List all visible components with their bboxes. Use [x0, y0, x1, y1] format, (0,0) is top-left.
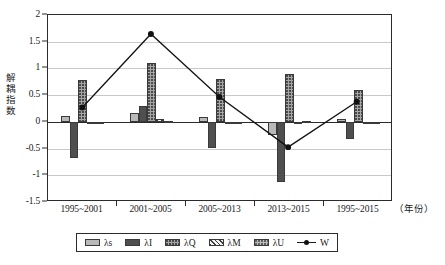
legend-item-λM[interactable]: λM	[209, 238, 241, 248]
x-tick-label-2: 2005~2013	[198, 202, 240, 216]
legend-label: λQ	[184, 238, 195, 248]
legend-label: λU	[273, 238, 284, 248]
bar-ls-1	[130, 113, 139, 122]
legend-label: λM	[228, 238, 241, 248]
bar-ls-2	[199, 117, 208, 122]
y-tick-label: 1.5	[29, 36, 40, 46]
legend-label: λs	[104, 238, 112, 248]
legend-item-λs[interactable]: λs	[85, 238, 112, 248]
w-data-point-1	[148, 31, 154, 37]
bar-lq-4	[354, 90, 363, 122]
legend-item-λI[interactable]: λI	[125, 238, 152, 248]
legend-label: λI	[144, 238, 152, 248]
x-axis-labels: 1995~20012001~20052005~20132013~20151995…	[47, 202, 392, 220]
y-axis-ticks: 21.510.50-0.5-1-1.5	[0, 0, 47, 201]
bar-lu-1	[164, 121, 173, 123]
bar-lm-4	[363, 122, 372, 124]
bar-lq-3	[285, 74, 294, 122]
y-tick-label: 1	[35, 62, 40, 72]
legend-swatch-lm	[209, 239, 224, 246]
bar-ls-3	[268, 122, 277, 135]
bar-li-3	[277, 122, 286, 182]
legend-line-marker-icon	[297, 239, 316, 247]
legend-swatch-lu	[254, 239, 269, 246]
plot-area	[47, 14, 392, 201]
bar-lm-2	[225, 122, 234, 124]
y-tick-label: 0	[35, 116, 40, 126]
y-tick-label: -1	[32, 169, 40, 179]
bar-lu-0	[95, 122, 104, 124]
legend-swatch-lq	[165, 239, 180, 246]
gridline	[48, 175, 391, 176]
legend-item-W[interactable]: W	[297, 238, 329, 248]
plot-inner	[48, 15, 391, 200]
legend-line-dot-icon	[304, 240, 309, 245]
gridline	[48, 42, 391, 43]
bar-li-0	[70, 122, 79, 158]
bar-li-4	[346, 122, 355, 140]
bar-lq-1	[147, 63, 156, 122]
bar-lm-3	[294, 122, 303, 124]
gridline	[48, 149, 391, 150]
y-tick-label: 2	[35, 9, 40, 19]
y-tick-label: -0.5	[26, 143, 40, 153]
chart-legend: λsλIλQλMλUW	[76, 233, 338, 252]
bar-ls-0	[61, 116, 70, 122]
bar-lu-4	[371, 122, 380, 124]
x-tick-label-1: 2001~2005	[129, 202, 171, 216]
legend-label: W	[320, 238, 329, 248]
decoupling-index-chart: 解耦指数 21.510.50-0.5-1-1.5 1995~20012001~2…	[0, 0, 445, 265]
y-tick-label: -1.5	[26, 196, 40, 206]
bar-lm-1	[156, 119, 165, 122]
x-tick-label-4: 1995~2015	[336, 202, 378, 216]
y-tick-label: 0.5	[29, 89, 40, 99]
bar-li-1	[139, 106, 148, 122]
legend-item-λU[interactable]: λU	[254, 238, 284, 248]
x-tick-label-3: 2013~2015	[267, 202, 309, 216]
bar-lq-0	[78, 80, 87, 122]
bar-ls-4	[337, 119, 346, 122]
bar-li-2	[208, 122, 217, 148]
x-tick-label-0: 1995~2001	[60, 202, 102, 216]
gridline	[48, 68, 391, 69]
bar-lu-2	[233, 122, 242, 124]
x-axis-title: （年份）	[394, 202, 434, 216]
legend-item-λQ[interactable]: λQ	[165, 238, 195, 248]
legend-swatch-ls	[85, 239, 100, 246]
bar-lu-3	[302, 121, 311, 123]
bar-lm-0	[87, 122, 96, 124]
bar-lq-2	[216, 79, 225, 122]
legend-swatch-li	[125, 239, 140, 246]
